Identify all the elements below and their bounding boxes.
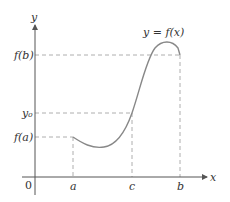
y-tick-y0: y₀: [21, 107, 33, 120]
ivt-diagram: y x 0 y = f(x) f(b) y₀ f(a) a c b: [0, 0, 230, 202]
x-axis-label: x: [210, 171, 217, 184]
x-tick-c: c: [129, 180, 135, 193]
x-tick-a: a: [70, 180, 77, 193]
guide-lines: [35, 55, 180, 177]
y-tick-fa: f(a): [13, 131, 33, 144]
y-tick-fb: f(b): [13, 49, 34, 62]
curve-label: y = f(x): [142, 26, 184, 39]
function-curve: [73, 42, 180, 147]
y-axis-label: y: [30, 11, 38, 24]
x-tick-b: b: [177, 180, 184, 193]
origin-label: 0: [25, 179, 32, 192]
